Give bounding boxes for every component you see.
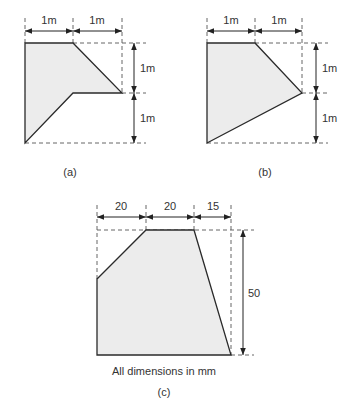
- shape-c: [97, 230, 231, 355]
- diagram-canvas: 1m 1m 1m 1m (a) 1m 1m 1m 1m (b): [0, 0, 351, 416]
- dim-label: 1m: [140, 62, 155, 74]
- figure-a: 1m 1m 1m 1m (a): [25, 14, 155, 178]
- dim-label: 1m: [140, 112, 155, 124]
- figure-caption: (b): [258, 166, 271, 178]
- dim-label: 1m: [89, 14, 104, 26]
- dim-label: 20: [115, 200, 127, 212]
- dim-label: 1m: [223, 14, 238, 26]
- dim-label: 1m: [322, 112, 337, 124]
- figure-caption: (a): [63, 166, 76, 178]
- shape-a: [25, 43, 122, 143]
- figure-caption: (c): [158, 386, 171, 398]
- dim-label: 1m: [41, 14, 56, 26]
- dim-label: 15: [207, 200, 219, 212]
- dim-label: 50: [248, 287, 260, 299]
- units-note: All dimensions in mm: [112, 365, 216, 377]
- dim-label: 1m: [271, 14, 286, 26]
- dim-label: 20: [164, 200, 176, 212]
- figure-b: 1m 1m 1m 1m (b): [207, 14, 337, 178]
- shape-b: [207, 43, 302, 143]
- figure-c: 20 20 15 50 All dimensions in mm (c): [97, 200, 260, 398]
- dim-label: 1m: [322, 62, 337, 74]
